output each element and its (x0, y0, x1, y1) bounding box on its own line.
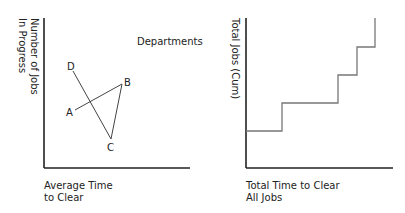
point-label-b: B (124, 77, 131, 88)
segment-c-d (73, 71, 111, 139)
left-xlabel-line1: Average Time (44, 180, 113, 191)
diagram-canvas: Number of Jobs In Progress Departments D… (0, 0, 405, 213)
point-label-a: A (66, 107, 73, 118)
right-ylabel: Total Jobs (Cum) (230, 17, 241, 99)
right-xlabel-line2: All Jobs (246, 192, 282, 203)
left-ylabel-line2: In Progress (17, 18, 28, 73)
left-ylabel-line1: Number of Jobs (29, 18, 40, 95)
point-label-c: C (107, 142, 114, 153)
right-chart: Total Jobs (Cum) Total Time to Clear All… (230, 17, 393, 203)
right-xlabel-line1: Total Time to Clear (245, 180, 340, 191)
right-y-label: Total Jobs (Cum) (230, 17, 241, 99)
cumulative-step-line (246, 18, 375, 131)
left-y-label: Number of Jobs In Progress (17, 18, 40, 95)
left-xlabel-line2: to Clear (44, 192, 84, 203)
legend-title: Departments (137, 36, 203, 47)
segment-b-c (111, 84, 122, 139)
left-chart: Number of Jobs In Progress Departments D… (17, 18, 203, 203)
point-label-d: D (67, 61, 75, 72)
